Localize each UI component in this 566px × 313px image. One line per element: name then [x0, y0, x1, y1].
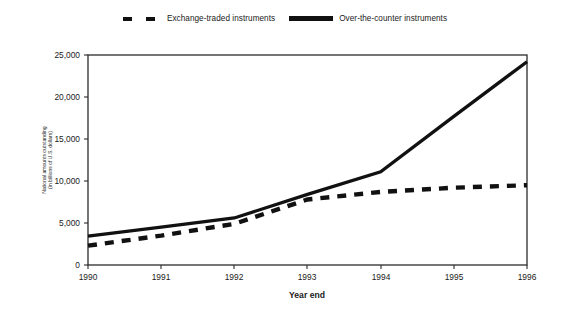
- chart-figure: Exchange-traded instruments Over-the-cou…: [0, 0, 566, 313]
- x-tick-label-1992: 1992: [225, 272, 244, 282]
- y-tick-label-5000: 5,000: [59, 218, 80, 228]
- x-tick-label-1995: 1995: [445, 272, 464, 282]
- chart-svg: 25,000 20,000 15,000 10,000 5,000 0 Nati…: [0, 0, 566, 313]
- x-tick-label-1996: 1996: [518, 272, 537, 282]
- x-tick-label-1993: 1993: [298, 272, 317, 282]
- y-axis-title-line2: (in billions of U.S. dollars): [47, 131, 53, 189]
- x-tick-labels: 1990 1991 1992 1993 1994 1995 1996: [79, 272, 537, 282]
- y-tick-label-0: 0: [75, 260, 80, 270]
- y-tick-label-10000: 10,000: [54, 176, 80, 186]
- series-line-over-the-counter: [88, 62, 527, 236]
- y-tick-label-15000: 15,000: [54, 134, 80, 144]
- y-tick-label-20000: 20,000: [54, 92, 80, 102]
- x-tick-label-1990: 1990: [79, 272, 98, 282]
- plot-frame: [88, 55, 527, 265]
- x-axis-title: Year end: [289, 290, 325, 300]
- plot-area: 25,000 20,000 15,000 10,000 5,000 0 Nati…: [0, 0, 566, 313]
- y-tick-label-25000: 25,000: [54, 50, 80, 60]
- x-tick-label-1991: 1991: [152, 272, 171, 282]
- x-tick-label-1994: 1994: [372, 272, 391, 282]
- y-axis-title: National amounts outstanding (in billion…: [41, 126, 53, 194]
- y-tick-labels: 25,000 20,000 15,000 10,000 5,000 0: [54, 50, 80, 270]
